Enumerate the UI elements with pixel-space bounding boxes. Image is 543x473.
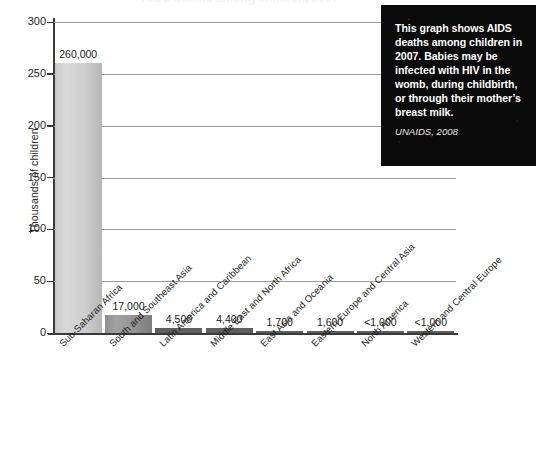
y-axis-tick-label: 0 [0, 326, 46, 338]
bar-value-label: 260,000 [47, 48, 110, 60]
y-axis-tick-label: 300 [0, 15, 46, 27]
y-axis-tick-label: 50 [0, 274, 46, 286]
bar [55, 63, 102, 333]
chart-title: AIDS deaths among children, 2007 [120, 0, 360, 5]
y-axis-tick-label: 150 [0, 171, 46, 183]
x-axis-line [48, 333, 458, 335]
y-axis-tick-label: 100 [0, 222, 46, 234]
callout-source: UNAIDS, 2008 [395, 126, 523, 137]
callout-text: This graph shows AIDS deaths among child… [395, 21, 523, 120]
y-axis-tick-label: 200 [0, 119, 46, 131]
bar-chart: AIDS deaths among children, 2007 Thousan… [0, 0, 543, 473]
y-axis-tick-label: 250 [0, 67, 46, 79]
callout-box: This graph shows AIDS deaths among child… [381, 5, 536, 166]
